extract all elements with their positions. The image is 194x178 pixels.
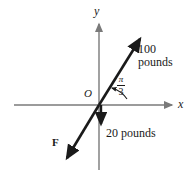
angle-denominator: 3	[113, 87, 129, 97]
axis-label-x: x	[178, 98, 183, 111]
force-vector-f	[67, 105, 99, 158]
axis-label-y: y	[94, 5, 99, 18]
vector-100-pounds-label-line2: pounds	[138, 56, 173, 69]
vector-20-pounds-label: 20 pounds	[106, 127, 156, 140]
vector-100-pounds-label-line1: 100	[138, 42, 156, 56]
origin-label: O	[84, 88, 92, 100]
angle-numerator: π	[113, 75, 129, 84]
force-vector-f-label: F	[52, 137, 59, 149]
diagram-canvas	[0, 0, 194, 178]
angle-fraction-label: π 3	[113, 75, 129, 97]
force-vector-diagram: y x O 100 pounds 20 pounds F π 3	[0, 0, 194, 178]
vector-100-pounds-label: 100 pounds	[138, 43, 173, 68]
